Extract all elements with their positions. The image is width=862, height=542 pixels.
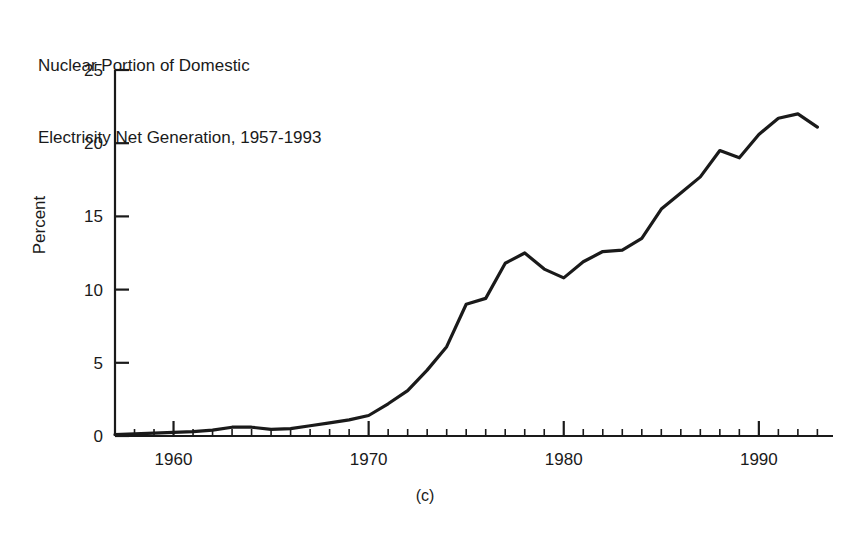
x-axis-tick-label: 1990 <box>740 450 778 469</box>
y-axis-tick-label: 0 <box>94 427 103 446</box>
y-axis-tick-label: 20 <box>84 134 103 153</box>
x-axis-tick-label: 1960 <box>155 450 193 469</box>
y-axis-tick-label: 5 <box>94 354 103 373</box>
data-series <box>115 114 817 435</box>
figure-caption: (c) <box>375 487 475 505</box>
figure-container: Nuclear Portion of Domestic Electricity … <box>0 0 862 542</box>
y-axis-tick-label: 15 <box>84 207 103 226</box>
x-axis-tick-label: 1970 <box>350 450 388 469</box>
line-chart-plot: 05101520251960197019801990 <box>0 0 862 542</box>
x-axis-tick-label: 1980 <box>545 450 583 469</box>
axes: 05101520251960197019801990 <box>84 61 833 469</box>
data-line <box>115 114 817 435</box>
y-axis-tick-label: 10 <box>84 281 103 300</box>
y-axis-tick-label: 25 <box>84 61 103 80</box>
